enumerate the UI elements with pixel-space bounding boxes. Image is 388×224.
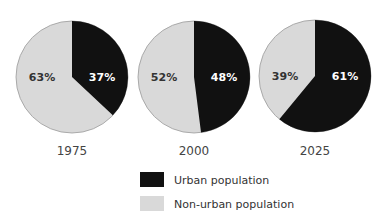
non-urban-percent-label: 39% — [272, 70, 298, 83]
legend-swatch-non-urban — [140, 196, 164, 211]
legend-label-non-urban: Non-urban population — [174, 198, 294, 211]
pie-2025: 61%39%2025 — [259, 20, 371, 158]
non-urban-percent-label: 63% — [29, 71, 55, 84]
legend: Urban population Non-urban population — [140, 172, 294, 211]
year-label: 2025 — [300, 144, 331, 158]
pie-2000: 48%52%2000 — [138, 21, 250, 158]
year-label: 1975 — [57, 144, 88, 158]
urban-percent-label: 61% — [332, 70, 358, 83]
non-urban-percent-label: 52% — [151, 71, 177, 84]
pie-chart-figure: 37%63%197548%52%200061%39%2025 Urban pop… — [0, 0, 388, 224]
legend-label-urban: Urban population — [174, 174, 269, 187]
legend-swatch-urban — [140, 172, 164, 187]
urban-percent-label: 48% — [211, 71, 237, 84]
year-label: 2000 — [179, 144, 210, 158]
urban-percent-label: 37% — [89, 71, 115, 84]
pie-1975: 37%63%1975 — [16, 21, 128, 158]
